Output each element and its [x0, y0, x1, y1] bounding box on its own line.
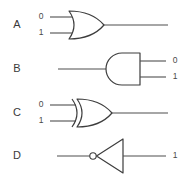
row-c-input-label-1: 1: [39, 115, 44, 125]
not-gate-body-d: [97, 139, 124, 173]
xor-gate-body-c: [77, 99, 112, 127]
and-gate-body-b: [106, 53, 140, 85]
diagram-row-a: A 0 1: [13, 11, 168, 39]
diagram-row-b: B 0 1: [13, 53, 177, 85]
row-d-output-label-1: 1: [173, 150, 178, 160]
row-label-d: D: [13, 149, 21, 161]
row-label-b: B: [13, 62, 20, 74]
row-a-input-label-0: 0: [39, 11, 44, 21]
row-a-input-label-1: 1: [39, 27, 44, 37]
logic-gate-diagram: A 0 1 B 0 1 C 0: [0, 0, 188, 178]
xor-gate-extra-arc-c: [72, 99, 77, 127]
row-b-output-label-1: 1: [173, 71, 178, 81]
row-c-input-label-0: 0: [39, 99, 44, 109]
inverter-bubble-d: [90, 153, 96, 159]
diagram-row-d: D 1: [13, 139, 178, 173]
row-b-output-label-0: 0: [173, 55, 178, 65]
diagram-row-c: C 0 1: [13, 99, 168, 127]
row-label-a: A: [13, 18, 21, 30]
row-label-c: C: [13, 106, 21, 118]
or-gate-body-a: [69, 11, 104, 39]
